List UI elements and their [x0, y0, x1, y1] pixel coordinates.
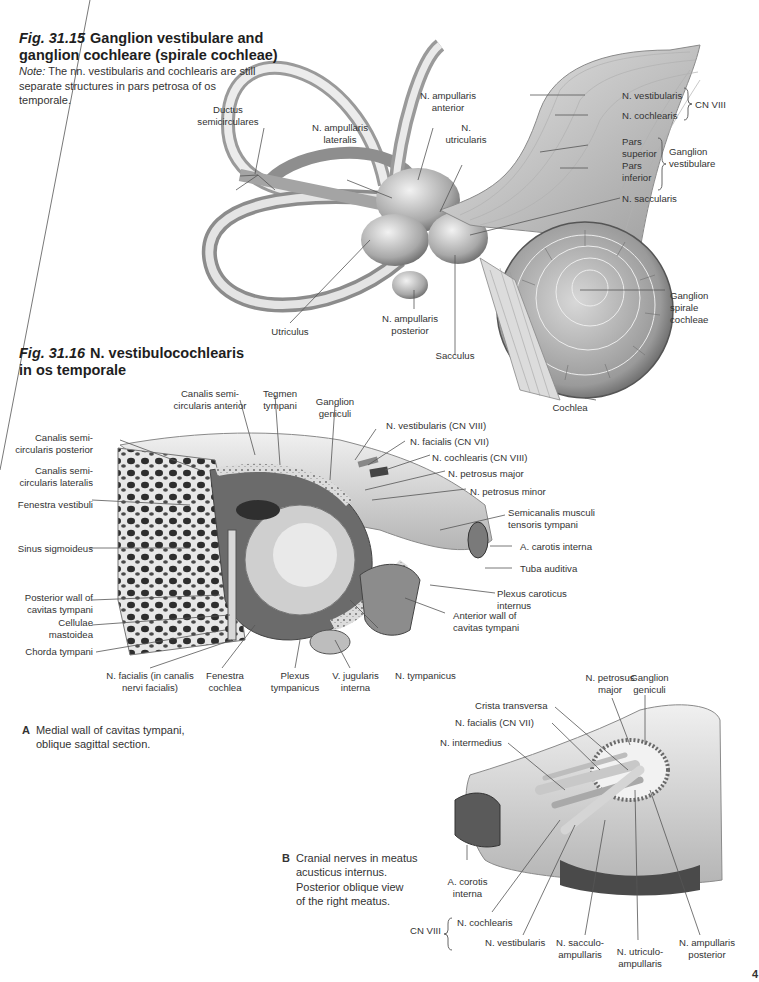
label-n-ampullaris-posterior: N. ampullaris posterior: [365, 313, 455, 337]
label-b-n-sacculo-ampullaris: N. sacculo- ampullaris: [550, 937, 610, 961]
figure-number: Fig. 31.15: [19, 30, 85, 46]
label-n-ampullaris-anterior: N. ampullaris anterior: [408, 90, 488, 114]
label-n-saccularis: N. saccularis: [622, 193, 677, 205]
label-posterior-wall-cavitas-tympani: Posterior wall of cavitas tympani: [0, 592, 93, 616]
label-canalis-semicircularis-lateralis: Canalis semi- circularis lateralis: [0, 465, 93, 489]
label-n-petrosus-major: N. petrosus major: [448, 468, 524, 480]
figure-31-16-heading: Fig. 31.16N. vestibulocochlearis in os t…: [19, 345, 249, 379]
label-plexus-caroticus-internus: Plexus caroticus internus: [497, 588, 567, 612]
label-fenestra-cochlea: Fenestra cochlea: [200, 670, 250, 694]
label-b-n-utriculo-ampullaris: N. utriculo- ampullaris: [610, 946, 670, 970]
label-b-n-facialis: N. facialis (CN VII): [455, 717, 534, 729]
label-cn-viii: CN VIII: [695, 99, 726, 111]
tympanic-cavity-illustration: [118, 433, 492, 655]
label-sinus-sigmoideus: Sinus sigmoideus: [0, 543, 93, 555]
label-b-a-carotis-interna: A. corotis interna: [440, 876, 495, 900]
label-n-facialis-in-canalis: N. facialis (in canalis nervi facialis): [100, 670, 200, 694]
label-sacculus: Sacculus: [420, 350, 490, 362]
label-n-ampullaris-lateralis: N. ampullaris lateralis: [300, 122, 380, 146]
internal-meatus-illustration: [455, 705, 722, 896]
label-cellulae-mastoidea: Cellulae mastoidea: [0, 617, 93, 641]
label-n-facialis-cn-vii: N. facialis (CN VII): [410, 436, 489, 448]
label-ganglion-geniculi: Ganglion geniculi: [305, 396, 365, 420]
label-n-utricularis: N. utricularis: [436, 122, 496, 146]
label-b-n-vestibularis: N. vestibularis: [485, 937, 545, 949]
label-pars-inferior: Pars inferior: [622, 160, 651, 184]
label-tegmen-tympani: Tegmen tympani: [250, 388, 310, 412]
panel-a-caption: AMedial wall of cavitas tympani, oblique…: [22, 708, 222, 752]
label-utriculus: Utriculus: [255, 326, 325, 338]
note-text: The nn. vestibularis and cochlearis are …: [19, 65, 255, 106]
label-semicanalis-musculi-tensoris-tympani: Semicanalis musculi tensoris tympani: [508, 507, 595, 531]
label-n-tympanicus: N. tympanicus: [395, 670, 456, 682]
figure-31-15-note: Note: The nn. vestibularis and cochleari…: [19, 64, 259, 108]
panel-b-caption-text: Cranial nerves in meatus acusticus inter…: [296, 851, 418, 909]
label-a-carotis-interna: A. carotis interna: [520, 541, 592, 553]
label-b-n-intermedius: N. intermedius: [440, 737, 502, 749]
panel-b-letter: B: [282, 852, 290, 864]
label-b-n-cochlearis: N. cochlearis: [457, 917, 512, 929]
label-tuba-auditiva: Tuba auditiva: [520, 563, 577, 575]
label-cochlea: Cochlea: [535, 402, 605, 414]
panel-b-caption: BCranial nerves in meatus acusticus inte…: [282, 836, 432, 909]
figure-31-15-heading: Fig. 31.15Ganglion vestibulare and gangl…: [19, 30, 319, 64]
label-pars-superior: Pars superior: [622, 136, 657, 160]
note-label: Note:: [19, 65, 45, 77]
label-b-cn-viii: CN VIII: [410, 925, 441, 937]
page-number: 4: [752, 968, 758, 980]
label-anterior-wall-cavitas-tympani: Anterior wall of cavitas tympani: [453, 610, 519, 634]
figure-number: Fig. 31.16: [19, 345, 85, 361]
label-canalis-semicircularis-anterior: Canalis semi- circularis anterior: [160, 388, 260, 412]
label-n-petrosus-minor: N. petrosus minor: [470, 486, 546, 498]
label-fenestra-vestibuli: Fenestra vestibuli: [0, 499, 93, 511]
label-ganglion-vestibulare: Ganglion vestibulare: [669, 146, 715, 170]
label-n-cochlearis: N. cochlearis: [622, 110, 677, 122]
label-n-vestibularis-cn-viii: N. vestibularis (CN VIII): [386, 420, 486, 432]
label-n-vestibularis: N. vestibularis: [622, 90, 682, 102]
label-n-cochlearis-cn-viii: N. cochlearis (CN VIII): [432, 452, 527, 464]
label-b-n-ampullaris-posterior: N. ampullaris posterior: [672, 937, 742, 961]
label-ganglion-spirale-cochleae: Ganglion spirale cochleae: [670, 290, 708, 326]
label-canalis-semicircularis-posterior: Canalis semi- circularis posterior: [0, 432, 93, 456]
label-ductus-semicirculares: Ductus semicirculares: [188, 104, 268, 128]
label-b-crista-transversa: Crista transversa: [475, 700, 548, 712]
label-chorda-tympani: Chorda tympani: [0, 646, 93, 658]
label-plexus-tympanicus: Plexus tympanicus: [265, 670, 325, 694]
label-v-jugularis-interna: V. jugularis interna: [328, 670, 383, 694]
panel-a-caption-text: Medial wall of cavitas tympani, oblique …: [36, 723, 185, 752]
label-b-ganglion-geniculi: Ganglion geniculi: [622, 672, 677, 696]
panel-a-letter: A: [22, 724, 30, 736]
